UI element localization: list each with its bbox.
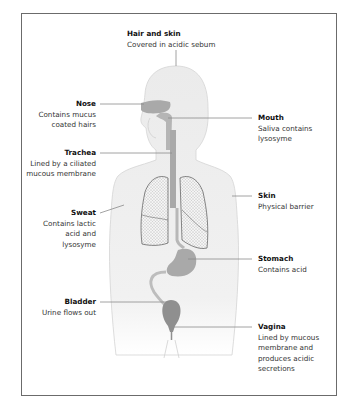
label-title: Nose	[20, 99, 96, 110]
label-hair-and-skin: Hair and skin Covered in acidic sebum	[127, 29, 215, 50]
label-desc: Lined by a ciliated mucous membrane	[26, 159, 96, 180]
label-desc: Contains mucus coated hairs	[20, 110, 96, 131]
label-skin: Skin Physical barrier	[258, 191, 330, 212]
trachea-organ	[170, 130, 176, 208]
label-desc: Contains acid	[258, 265, 330, 276]
label-desc: Urine flows out	[20, 308, 96, 319]
label-title: Hair and skin	[127, 29, 215, 40]
label-title: Bladder	[20, 297, 96, 308]
label-desc: Contains lactic acid and lysosyme	[36, 219, 96, 251]
label-title: Vagina	[258, 322, 330, 333]
label-title: Stomach	[258, 254, 330, 265]
label-vagina: Vagina Lined by mucous membrane and prod…	[258, 322, 330, 375]
label-stomach: Stomach Contains acid	[258, 254, 330, 275]
label-bladder: Bladder Urine flows out	[20, 297, 96, 318]
label-trachea: Trachea Lined by a ciliated mucous membr…	[26, 148, 96, 180]
label-sweat: Sweat Contains lactic acid and lysosyme	[36, 208, 96, 250]
label-title: Sweat	[36, 208, 96, 219]
label-desc: Lined by mucous membrane and produces ac…	[258, 333, 330, 375]
label-title: Skin	[258, 191, 330, 202]
label-desc: Covered in acidic sebum	[127, 40, 215, 51]
label-title: Trachea	[26, 148, 96, 159]
label-mouth: Mouth Saliva contains lysosyme	[258, 113, 328, 145]
label-desc: Saliva contains lysosyme	[258, 124, 328, 145]
label-title: Mouth	[258, 113, 328, 124]
label-nose: Nose Contains mucus coated hairs	[20, 99, 96, 131]
label-desc: Physical barrier	[258, 202, 330, 213]
